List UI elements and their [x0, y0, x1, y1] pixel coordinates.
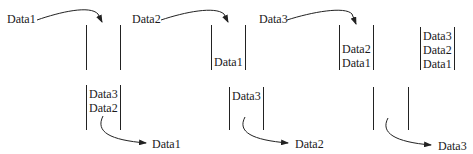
queue-wall-left [420, 27, 421, 70]
queue-item: Data2 [423, 43, 452, 57]
queue-wall-left [229, 87, 230, 130]
enqueue-arrow-1 [37, 10, 102, 22]
outgoing-label-3: Data3 [438, 139, 467, 153]
queue-wall-left [211, 25, 212, 70]
queue-wall-right [120, 85, 121, 130]
queue-wall-left [339, 25, 340, 70]
queue-wall-right [408, 87, 409, 130]
queue-item: Data3 [232, 89, 261, 103]
enqueue-arrow-3 [287, 10, 356, 24]
queue-wall-right [263, 87, 264, 130]
dequeue-arrow-2 [243, 117, 288, 143]
queue-item: Data2 [342, 42, 371, 56]
queue-wall-right [454, 27, 455, 70]
queue-wall-right [120, 25, 121, 70]
queue-wall-left [373, 87, 374, 130]
queue-wall-right [245, 25, 246, 70]
dequeue-arrow-1 [101, 116, 146, 143]
incoming-label-3: Data3 [259, 12, 288, 26]
queue-item: Data1 [214, 55, 243, 69]
outgoing-label-1: Data1 [152, 137, 181, 151]
queue-item: Data1 [423, 57, 452, 71]
incoming-label-2: Data2 [132, 12, 161, 26]
queue-item: Data1 [342, 56, 371, 70]
queue-wall-left [86, 25, 87, 70]
queue-wall-left [86, 85, 87, 130]
queue-wall-right [373, 25, 374, 70]
enqueue-arrow-2 [161, 10, 228, 22]
incoming-label-1: Data1 [7, 12, 36, 26]
queue-item: Data3 [89, 87, 118, 101]
arrows-layer [0, 0, 473, 154]
outgoing-label-2: Data2 [295, 137, 324, 151]
queue-item: Data3 [423, 29, 452, 43]
queue-item: Data2 [89, 101, 118, 115]
